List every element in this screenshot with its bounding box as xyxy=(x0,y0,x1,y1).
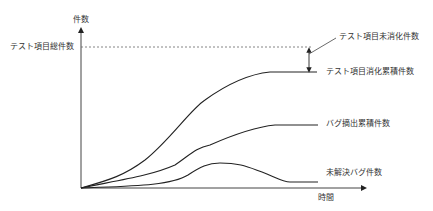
open-bugs-label: 未解決バグ件数 xyxy=(326,168,382,178)
series-consumed-curve xyxy=(81,72,317,188)
unconsumed-leader-line xyxy=(309,38,336,54)
consumed-label: テスト項目消化累積件数 xyxy=(326,67,414,77)
total-label: テスト項目総件数 xyxy=(10,42,74,52)
series-bugs-found-curve xyxy=(81,125,318,188)
y-axis-label: 件数 xyxy=(73,15,89,25)
series-open-bugs-curve xyxy=(81,163,318,188)
bugs-found-label: バグ摘出累積件数 xyxy=(326,119,390,129)
x-axis-label: 時間 xyxy=(318,193,334,203)
unconsumed-label: テスト項目未消化件数 xyxy=(339,32,419,42)
